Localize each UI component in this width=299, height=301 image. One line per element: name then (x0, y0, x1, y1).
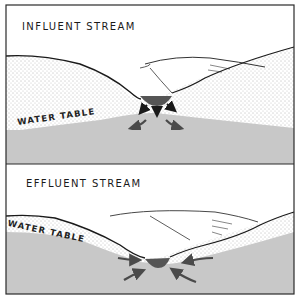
far-hill-outline (110, 211, 258, 222)
far-hill-outline-2 (140, 64, 150, 68)
far-hill-outline-2 (150, 216, 190, 240)
panel-divider (6, 130, 294, 164)
panel-effluent (6, 211, 294, 294)
influent-stream-title: INFLUENT STREAM (22, 21, 136, 32)
diagram-canvas (0, 0, 299, 301)
effluent-stream-title: EFFLUENT STREAM (26, 178, 142, 189)
